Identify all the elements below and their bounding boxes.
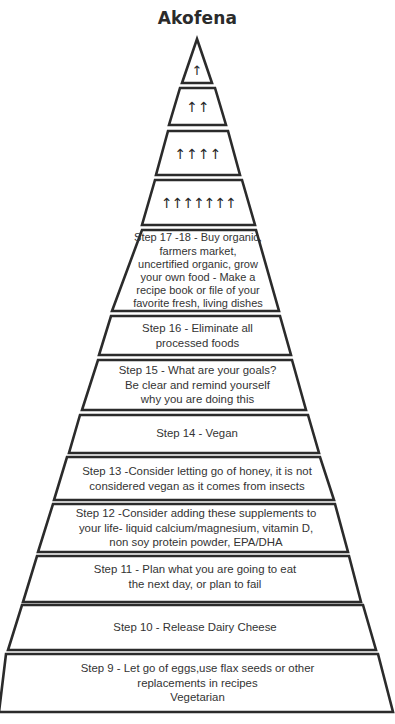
tier-step-14: Step 14 - Vegan [75,416,319,450]
tier-step-16: Step 16 - Eliminate all processed foods [105,317,290,354]
tier-label: Step 12 -Consider adding these supplemen… [76,506,317,550]
tier-step-9: Step 9 - Let go of eggs,use flax seeds o… [4,655,391,711]
tier-apex-arrows: ↑ [182,58,212,82]
tier-label: Step 17 -18 - Buy organic, farmers marke… [133,231,263,310]
tier-label: Step 14 - Vegan [156,426,238,441]
tier-label: Step 9 - Let go of eggs,use flax seeds o… [81,661,315,705]
tier-step-12: Step 12 -Consider adding these supplemen… [45,505,347,551]
tier-3-arrows: ↑↑↑↑ [156,133,240,175]
up-arrow-icon: ↑ [192,63,203,78]
tier-step-17-18: Step 17 -18 - Buy organic, farmers marke… [118,232,278,310]
up-arrow-icon: ↑↑↑↑↑↑↑ [161,195,236,211]
tier-label: Step 16 - Eliminate all processed foods [142,321,253,350]
tier-label: Step 13 -Consider letting go of honey, i… [82,464,312,493]
tier-4-arrows: ↑↑↑↑↑↑↑ [142,182,255,224]
tier-label: Step 15 - What are your goals? Be clear … [119,363,277,407]
tier-step-11: Step 11 - Plan what you are going to eat… [30,557,360,601]
tier-label: Step 11 - Plan what you are going to eat… [94,562,296,591]
tier-label: Step 10 - Release Dairy Cheese [113,620,276,635]
tier-step-15: Step 15 - What are your goals? Be clear … [90,361,305,409]
up-arrow-icon: ↑↑↑↑ [175,146,222,162]
tier-step-13: Step 13 -Consider letting go of honey, i… [60,458,334,499]
tier-2-arrows: ↑↑ [169,90,227,124]
up-arrow-icon: ↑↑ [186,99,209,115]
tier-step-10: Step 10 - Release Dairy Cheese [15,606,375,649]
